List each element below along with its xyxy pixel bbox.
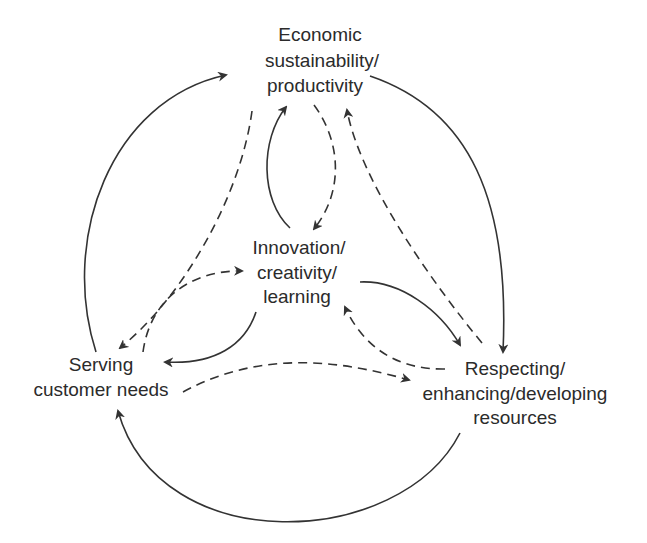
- node-economic: Economic sustainability/ productivity: [265, 24, 380, 96]
- node-innovation-line-2: creativity/: [257, 262, 338, 283]
- edge-respecting-to-innovation: [345, 307, 445, 369]
- edge-serving-to-respecting: [183, 363, 409, 392]
- node-serving-line-2: customer needs: [33, 379, 168, 400]
- node-respecting-line-1: Respecting/: [465, 358, 566, 379]
- node-innovation-line-1: Innovation/: [253, 237, 347, 258]
- node-respecting-line-3: resources: [473, 407, 556, 428]
- edge-economic-to-innovation: [314, 105, 335, 229]
- node-serving-line-1: Serving: [69, 354, 133, 375]
- edge-innovation-to-respecting: [360, 282, 460, 345]
- node-economic-line-1: Economic: [278, 24, 361, 45]
- node-innovation-line-3: learning: [263, 286, 331, 307]
- node-serving: Serving customer needs: [33, 354, 168, 400]
- node-respecting-line-2: enhancing/developing: [423, 383, 608, 404]
- edge-innovation-to-serving: [165, 312, 256, 362]
- edge-respecting-to-serving: [118, 411, 460, 522]
- edge-serving-to-economic: [85, 75, 226, 352]
- edge-serving-to-innovation: [143, 271, 242, 352]
- node-respecting: Respecting/ enhancing/developing resourc…: [423, 358, 608, 428]
- edge-economic-to-serving: [120, 111, 252, 348]
- cycle-diagram: Economic sustainability/ productivity In…: [0, 0, 647, 543]
- node-economic-line-2: sustainability/: [265, 50, 380, 71]
- node-innovation: Innovation/ creativity/ learning: [253, 237, 347, 307]
- edge-innovation-to-economic: [267, 107, 290, 228]
- node-economic-line-3: productivity: [267, 75, 364, 96]
